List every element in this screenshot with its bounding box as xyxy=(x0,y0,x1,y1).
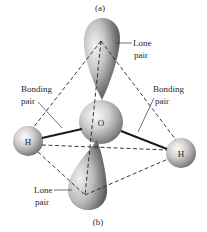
leader-line-bonding-right xyxy=(138,98,154,132)
leader-line-bonding-left xyxy=(38,102,62,128)
label-lone-pair-top-line2: pair xyxy=(134,50,148,60)
bottom-lone-pair-lobe xyxy=(68,140,107,210)
hydrogen-right-symbol: H xyxy=(178,149,185,159)
caption-b: (b) xyxy=(93,217,104,227)
hydrogen-left-symbol: H xyxy=(25,137,32,147)
label-bonding-pair-left-line2: pair xyxy=(21,96,35,106)
label-lone-pair-top-line1: Lone xyxy=(133,38,152,48)
label-lone-pair-bottom-line1: Lone xyxy=(34,185,53,195)
caption-a: (a) xyxy=(95,3,105,13)
bond-o-h-left xyxy=(42,129,82,138)
oxygen-symbol: O xyxy=(98,118,105,128)
label-bonding-pair-left-line1: Bonding xyxy=(21,84,53,94)
bond-o-h-right xyxy=(121,131,167,149)
label-bonding-pair-right-line2: pair xyxy=(155,96,169,106)
water-molecule-diagram: (a) O H H Lone pair Bonding pair Bonding… xyxy=(0,0,207,232)
label-lone-pair-bottom-line2: pair xyxy=(35,197,49,207)
label-bonding-pair-right-line1: Bonding xyxy=(153,84,185,94)
